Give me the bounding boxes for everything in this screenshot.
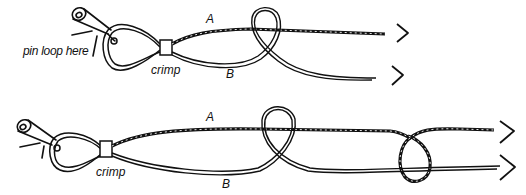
step-2-panel [15, 107, 515, 182]
strand-b-label: B [226, 68, 234, 80]
knot-diagram [0, 0, 526, 195]
chevron-right-icon [392, 66, 403, 85]
crimp-sleeve [100, 141, 112, 157]
strand-a [112, 129, 494, 146]
strand-b [172, 8, 376, 81]
strand-a-label: A [206, 111, 214, 123]
crimp-sleeve [160, 40, 172, 55]
wire-loop [50, 133, 101, 172]
step-1-panel [70, 5, 408, 85]
chevron-right-icon [500, 121, 514, 143]
pin-loop-note: pin loop here [23, 45, 89, 57]
crimp-label: crimp [151, 64, 180, 76]
strand-a-label: A [206, 13, 214, 25]
strand-b [112, 107, 500, 175]
chevron-right-icon [397, 24, 408, 42]
crimp-label: crimp [96, 166, 125, 178]
chevron-right-icon [500, 155, 515, 180]
knot-loop-a [400, 136, 430, 181]
strand-b-label: B [222, 178, 230, 190]
